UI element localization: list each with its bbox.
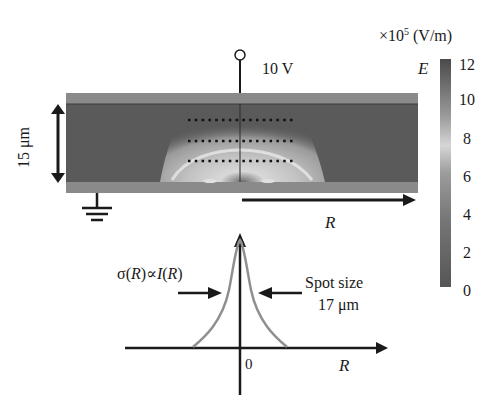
spot-size-label: Spot size xyxy=(305,275,363,291)
colorbar-tick: 12 xyxy=(459,57,475,73)
colorbar-tick: 6 xyxy=(463,169,471,185)
origin-label: 0 xyxy=(245,357,253,372)
device-slab xyxy=(66,93,418,193)
voltage-label: 10 V xyxy=(262,61,293,77)
thickness-arrow-icon xyxy=(51,104,65,183)
profile-x-axis-label: R xyxy=(339,357,349,374)
colorbar-tick: 8 xyxy=(463,131,471,147)
proportionality-formula: σ(R)∝I(R) xyxy=(117,266,183,282)
colorbar-unit-label: ×105 (V/m) xyxy=(379,27,452,44)
spot-left-arrow-icon xyxy=(208,287,222,299)
thickness-label: 15 μm xyxy=(16,127,32,168)
ground-icon xyxy=(82,193,112,220)
colorbar-tick: 4 xyxy=(463,207,471,223)
voltage-terminal xyxy=(235,50,245,93)
spot-size-value: 17 μm xyxy=(318,297,359,313)
radial-axis-label: R xyxy=(325,214,335,231)
colorbar xyxy=(440,59,451,287)
device-field-diagram xyxy=(0,0,489,400)
colorbar-quantity-label: E xyxy=(418,60,428,77)
colorbar-tick: 0 xyxy=(463,283,471,299)
colorbar-tick: 2 xyxy=(463,245,471,261)
colorbar-tick: 10 xyxy=(459,92,475,108)
spot-right-arrow-icon xyxy=(258,287,272,299)
terminal-circle-icon xyxy=(235,50,245,60)
